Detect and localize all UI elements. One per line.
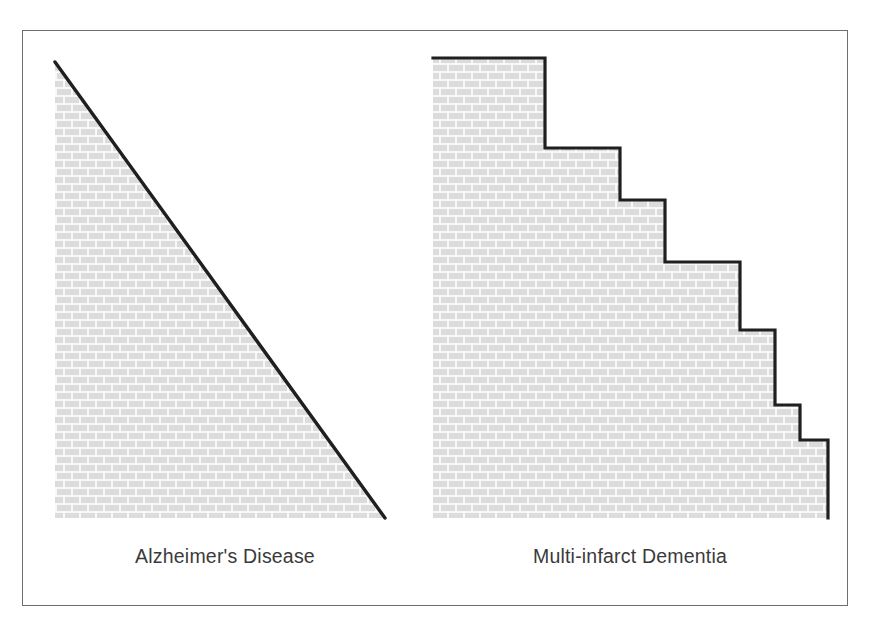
caption-multiinfarct: Multi-infarct Dementia — [430, 545, 830, 568]
shape-alzheimers-triangle — [40, 50, 410, 540]
shape-multiinfarct-staircase — [420, 45, 845, 535]
caption-alzheimers: Alzheimer's Disease — [55, 545, 395, 568]
figure-root: Alzheimer's Disease Multi-infarct Dement… — [0, 0, 871, 629]
brick-fill-multiinfarct — [420, 45, 845, 535]
figure-graphics — [0, 0, 871, 629]
